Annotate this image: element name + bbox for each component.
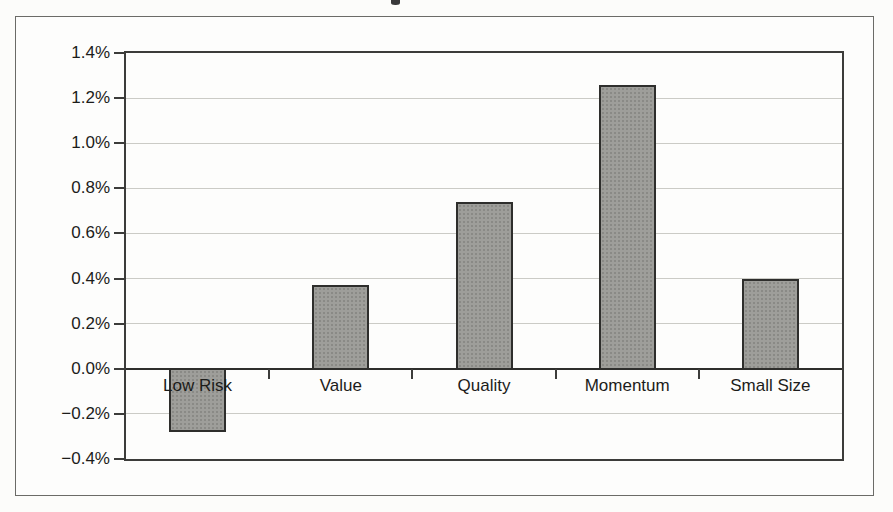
y-axis-tick-label: 0.8% bbox=[30, 178, 110, 198]
y-axis-tick-label: 0.4% bbox=[30, 269, 110, 289]
bar-chart-plot-area: 1.4%1.2%1.0%0.8%0.6%0.4%0.2%0.0%−0.2%−0.… bbox=[124, 51, 844, 461]
y-axis-tick-mark bbox=[114, 142, 124, 144]
x-axis-zero-line bbox=[126, 368, 842, 370]
y-axis-tick-mark bbox=[114, 232, 124, 234]
bar-quality bbox=[456, 202, 513, 370]
chart-figure-frame: 1.4%1.2%1.0%0.8%0.6%0.4%0.2%0.0%−0.2%−0.… bbox=[15, 16, 874, 496]
category-label: Small Size bbox=[700, 376, 840, 396]
gridline bbox=[126, 143, 842, 144]
y-axis-tick-mark bbox=[114, 323, 124, 325]
y-axis-tick-mark bbox=[114, 413, 124, 415]
y-axis-tick-label: 0.2% bbox=[30, 314, 110, 334]
bar-value bbox=[312, 285, 369, 369]
bar-momentum bbox=[599, 85, 656, 370]
y-axis-tick-mark bbox=[114, 187, 124, 189]
y-axis-tick-label: 1.2% bbox=[30, 88, 110, 108]
y-axis-tick-label: −0.2% bbox=[30, 404, 110, 424]
bar-small-size bbox=[742, 279, 799, 370]
y-axis-tick-label: 1.4% bbox=[30, 43, 110, 63]
y-axis-tick-mark bbox=[114, 368, 124, 370]
category-label: Value bbox=[271, 376, 411, 396]
y-axis-tick-mark bbox=[114, 278, 124, 280]
y-axis-tick-label: 1.0% bbox=[30, 133, 110, 153]
y-axis-tick-mark bbox=[114, 52, 124, 54]
gridline bbox=[126, 413, 842, 414]
y-axis-tick-label: 0.0% bbox=[30, 359, 110, 379]
gridline bbox=[126, 98, 842, 99]
category-label: Low Risk bbox=[128, 376, 268, 396]
cropped-title-fragment bbox=[391, 0, 400, 5]
y-axis-tick-label: −0.4% bbox=[30, 449, 110, 469]
scanned-book-page: { "figure": { "background_color": "#fcfc… bbox=[0, 0, 893, 512]
y-axis-tick-mark bbox=[114, 97, 124, 99]
y-axis-tick-label: 0.6% bbox=[30, 223, 110, 243]
gridline bbox=[126, 188, 842, 189]
y-axis-tick-mark bbox=[114, 458, 124, 460]
category-label: Quality bbox=[414, 376, 554, 396]
category-label: Momentum bbox=[557, 376, 697, 396]
